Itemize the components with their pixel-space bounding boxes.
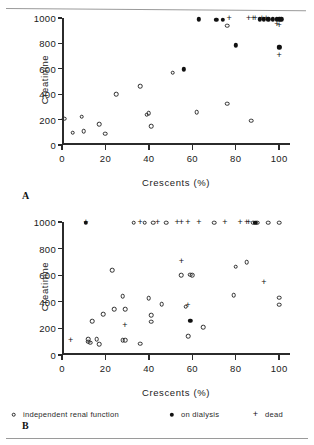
plus-marker [178, 220, 184, 226]
open-circle-marker [201, 325, 206, 330]
plus-marker [83, 220, 89, 226]
panel-b-x-axis-title: Crescents (%) [142, 387, 210, 398]
open-circle-marker [114, 92, 119, 97]
plus-marker [261, 280, 267, 286]
panel-a-y-tick [58, 17, 62, 18]
panel-b-x-tick-label: 100 [271, 363, 288, 374]
open-circle-marker [277, 220, 282, 225]
panel-b-y-axis-title: Creatinine [39, 242, 50, 332]
panel-a-x-tick-label: 60 [187, 153, 198, 164]
plus-marker [246, 220, 252, 226]
panel-b-x-tick [61, 355, 62, 360]
legend-label-dead: dead [265, 410, 283, 419]
legend-label-independent: independent renal function [23, 410, 119, 419]
panel-b-x-tick [148, 355, 149, 360]
open-circle-marker [110, 268, 115, 273]
open-circle-marker [149, 313, 154, 318]
panel-b-letter: B [22, 420, 29, 431]
open-circle-marker [138, 84, 143, 89]
panel-a-y-tick [58, 94, 62, 95]
open-circle-marker [277, 302, 282, 307]
open-circle-marker [97, 342, 102, 347]
panel-b-y-tick [58, 328, 62, 329]
panel-b-y-tick [58, 248, 62, 249]
open-circle-marker [101, 312, 106, 317]
open-circle-marker [266, 220, 271, 225]
plus-icon [252, 411, 259, 418]
open-circle-marker [170, 70, 175, 75]
open-circle-marker [97, 122, 102, 127]
panel-b-y-tick-label: 1000 [34, 217, 56, 228]
panel-b-y-tick [58, 221, 62, 222]
plus-marker [226, 16, 232, 22]
filled-circle-marker [197, 17, 201, 21]
open-circle-marker [121, 294, 126, 299]
open-circle-marker [233, 264, 238, 269]
legend-item-dialysis: on dialysis [168, 410, 219, 419]
filled-circle-marker [214, 17, 218, 21]
open-circle-marker [90, 319, 95, 324]
plus-marker [263, 16, 269, 22]
panel-b-y-tick-label: 0 [50, 350, 56, 361]
open-circle-marker [131, 220, 136, 225]
open-circle-icon [10, 411, 17, 418]
open-circle-marker [88, 340, 93, 345]
panel-a-plot-area: 02004006008001000020406080100 [62, 18, 290, 145]
open-circle-marker [123, 338, 128, 343]
open-circle-marker [244, 260, 249, 265]
plus-marker [252, 16, 258, 22]
panel-a-x-tick [105, 145, 106, 150]
panel-a: 02004006008001000020406080100 Creatinine… [0, 0, 314, 205]
panel-b-y-axis [62, 222, 64, 355]
panel-b-x-axis [62, 353, 290, 355]
panel-a-y-axis [62, 18, 64, 145]
open-circle-marker [81, 129, 86, 134]
figure-legend: independent renal function on dialysis d… [0, 408, 314, 426]
open-circle-marker [123, 307, 128, 312]
panel-b-plot-area: 02004006008001000020406080100 [62, 222, 290, 355]
plus-marker [222, 220, 228, 226]
panel-b-x-tick-label: 80 [230, 363, 241, 374]
panel-b-x-tick [235, 355, 236, 360]
plus-marker [137, 220, 143, 226]
panel-b-x-tick-label: 0 [59, 363, 65, 374]
panel-a-letter: A [22, 190, 29, 201]
open-circle-marker [149, 319, 154, 324]
open-circle-marker [225, 101, 230, 106]
plus-marker [122, 323, 128, 329]
open-circle-marker [194, 110, 199, 115]
open-circle-marker [249, 119, 254, 124]
plus-marker [68, 338, 74, 344]
panel-a-x-tick-label: 20 [100, 153, 111, 164]
panel-a-x-tick-label: 100 [271, 153, 288, 164]
open-circle-marker [71, 130, 76, 135]
figure-container: 02004006008001000020406080100 Creatinine… [0, 0, 314, 445]
filled-circle-marker [188, 319, 192, 323]
panel-a-x-tick-label: 80 [230, 153, 241, 164]
open-circle-marker [179, 273, 184, 278]
open-circle-marker [190, 273, 195, 278]
bottom-divider-rule [6, 438, 308, 439]
panel-a-y-axis-title: Creatinine [39, 35, 50, 125]
panel-b-x-tick [278, 355, 279, 360]
panel-a-y-tick [58, 43, 62, 44]
plus-marker [276, 53, 282, 59]
panel-a-x-tick [192, 145, 193, 150]
plus-marker [155, 220, 161, 226]
panel-a-y-tick-label: 0 [50, 140, 56, 151]
open-circle-marker [147, 111, 152, 116]
open-circle-marker [225, 23, 230, 28]
plus-marker [276, 23, 282, 29]
panel-b-y-tick [58, 301, 62, 302]
filled-circle-marker [220, 17, 224, 21]
panel-a-y-tick-label: 1000 [34, 13, 56, 24]
panel-a-x-axis [62, 143, 290, 145]
panel-a-x-tick-label: 0 [59, 153, 65, 164]
legend-item-dead: dead [252, 410, 283, 419]
open-circle-marker [186, 334, 191, 339]
panel-a-x-tick [61, 145, 62, 150]
open-circle-marker [212, 220, 217, 225]
open-circle-marker [103, 131, 108, 136]
legend-item-independent: independent renal function [10, 410, 119, 419]
legend-label-dialysis: on dialysis [181, 410, 219, 419]
